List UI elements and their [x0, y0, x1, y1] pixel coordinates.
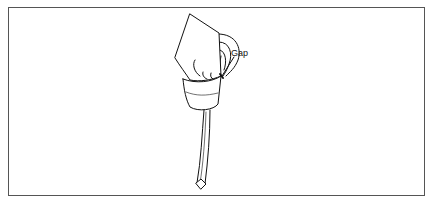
knot-illustration: Gap: [0, 0, 432, 205]
folded-flap: [175, 14, 221, 81]
strap-left: [197, 110, 204, 183]
gap-label: Gap: [231, 48, 248, 58]
gap-leader-line: [222, 57, 234, 76]
